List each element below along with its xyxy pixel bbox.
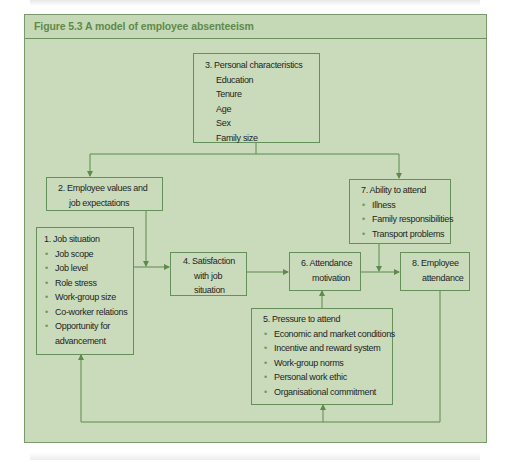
list-item: •Job level xyxy=(44,261,133,276)
cropped-page-text-bottom xyxy=(30,452,480,460)
list-item: •Economic and market conditions xyxy=(263,327,392,342)
box-pressure-to-attend: 5. Pressure to attend •Economic and mark… xyxy=(251,308,393,405)
bullet-icon: • xyxy=(264,341,267,356)
bullet-icon: • xyxy=(45,305,48,320)
list-item: •Transport problems xyxy=(361,227,450,242)
list-item: •Incentive and reward system xyxy=(263,341,392,356)
list-item: •Work-group norms xyxy=(263,356,392,371)
pressure-list: •Economic and market conditions •Incenti… xyxy=(263,327,392,400)
box-title: 6. Attendance xyxy=(301,256,360,271)
list-item: •Work-group size xyxy=(44,290,133,305)
list-item: •Organisational commitment xyxy=(263,385,392,400)
box-attendance-motivation: 6. Attendance motivation xyxy=(289,252,361,291)
job-situation-list: •Job scope •Job level •Role stress •Work… xyxy=(44,247,133,349)
box-title: 3. Personal characteristics xyxy=(205,58,319,73)
bullet-icon: • xyxy=(264,327,267,342)
list-item: •Co-worker relations xyxy=(44,305,133,320)
bullet-icon: • xyxy=(264,370,267,385)
bullet-icon: • xyxy=(362,198,365,213)
box-title-cont: job expectations xyxy=(58,196,162,211)
box-job-situation: 1. Job situation •Job scope •Job level •… xyxy=(36,227,134,355)
list-item: •Role stress xyxy=(44,276,133,291)
box-ability-to-attend: 7. Ability to attend •Illness •Family re… xyxy=(349,179,451,244)
box-job-satisfaction: 4. Satisfaction with job situation xyxy=(170,252,247,296)
list-item: Sex xyxy=(205,116,319,131)
bullet-icon: • xyxy=(45,276,48,291)
box-employee-attendance: 8. Employee attendance xyxy=(400,252,470,291)
box-title-cont: situation xyxy=(183,283,246,298)
box-title: 8. Employee xyxy=(412,256,469,271)
list-item: •Family responsibilities xyxy=(361,212,450,227)
bullet-icon: • xyxy=(45,247,48,262)
list-item: Tenure xyxy=(205,87,319,102)
bullet-icon: • xyxy=(45,319,48,334)
box-title-cont: with job xyxy=(183,269,246,284)
box-title-cont: attendance xyxy=(412,271,469,286)
bullet-icon: • xyxy=(264,356,267,371)
box-title: 4. Satisfaction xyxy=(183,254,246,269)
box-title-cont: motivation xyxy=(301,271,360,286)
list-item: •Opportunity for xyxy=(44,319,133,334)
box-title: 7. Ability to attend xyxy=(361,183,450,198)
bullet-icon: • xyxy=(264,385,267,400)
ability-list: •Illness •Family responsibilities •Trans… xyxy=(361,198,450,242)
bullet-icon: • xyxy=(45,261,48,276)
box-title: 2. Employee values and xyxy=(58,181,162,196)
bullet-icon: • xyxy=(45,290,48,305)
list-item: advancement xyxy=(44,334,133,349)
box-title: 5. Pressure to attend xyxy=(263,312,392,327)
list-item: Education xyxy=(205,73,319,88)
list-item: Family size xyxy=(205,131,319,146)
bullet-icon: • xyxy=(362,212,365,227)
box-employee-values: 2. Employee values and job expectations xyxy=(46,177,163,211)
box-title: 1. Job situation xyxy=(44,232,133,247)
list-item: Age xyxy=(205,102,319,117)
box-personal-characteristics: 3. Personal characteristics Education Te… xyxy=(193,53,320,143)
list-item: •Illness xyxy=(361,198,450,213)
list-item: •Personal work ethic xyxy=(263,370,392,385)
list-item: •Job scope xyxy=(44,247,133,262)
bullet-icon: • xyxy=(362,227,365,242)
